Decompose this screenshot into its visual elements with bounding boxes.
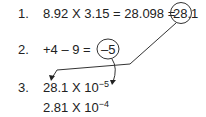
arrow-28-1-head [49, 75, 55, 81]
annotation-overlay [0, 0, 206, 117]
arrow-minus-5-head [110, 80, 116, 85]
arrow-minus-5 [112, 59, 115, 82]
result-2-circle [97, 39, 119, 59]
arrow-28-1 [52, 23, 176, 78]
result-1-circle [171, 3, 192, 24]
